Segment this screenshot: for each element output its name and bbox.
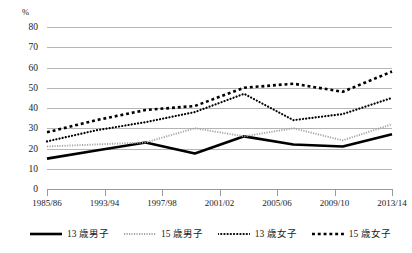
y-tick-label-20: 20 xyxy=(10,144,38,154)
x-tickmark-1985/86 xyxy=(47,189,48,196)
y-tick-label-10: 10 xyxy=(10,164,38,174)
x-tickmark-2005/06 xyxy=(277,189,278,196)
legend-item-13歳男子[interactable]: 13 歳男子 xyxy=(30,229,109,239)
legend-label: 15 歳男子 xyxy=(161,229,203,239)
x-tickmark-1993/94 xyxy=(105,189,106,196)
y-tick-label-50: 50 xyxy=(10,83,38,93)
square-dashed-line-swatch xyxy=(312,229,344,239)
legend-item-15歳男子[interactable]: 15 歳男子 xyxy=(124,229,203,239)
y-tick-label-70: 70 xyxy=(10,42,38,52)
light-dotted-line-swatch xyxy=(124,229,156,239)
series-line-15歳男子 xyxy=(47,124,392,146)
x-tick-label-2013/14: 2013/14 xyxy=(362,198,412,208)
y-axis-unit-label: % xyxy=(22,8,29,17)
series-line-13歳男子 xyxy=(47,134,392,158)
y-tick-label-30: 30 xyxy=(10,123,38,133)
series-lines xyxy=(47,27,392,189)
legend-label: 15 歳女子 xyxy=(349,229,391,239)
legend-item-13歳女子[interactable]: 13 歳女子 xyxy=(218,229,297,239)
y-tick-label-60: 60 xyxy=(10,63,38,73)
x-tickmark-2001/02 xyxy=(220,189,221,196)
x-tickmark-2013/14 xyxy=(392,189,393,196)
y-tick-label-40: 40 xyxy=(10,103,38,113)
y-tick-label-0: 0 xyxy=(10,184,38,194)
legend-label: 13 歳女子 xyxy=(255,229,297,239)
plot-area xyxy=(47,27,392,189)
series-line-13歳女子 xyxy=(47,94,392,142)
fine-dotted-line-swatch xyxy=(218,229,250,239)
series-line-15歳女子 xyxy=(47,72,392,133)
y-tick-label-80: 80 xyxy=(10,22,38,32)
x-tickmark-1997/98 xyxy=(162,189,163,196)
x-tick-label-2005/06: 2005/06 xyxy=(247,198,307,208)
x-tickmark-2009/10 xyxy=(335,189,336,196)
x-tick-label-2009/10: 2009/10 xyxy=(305,198,365,208)
chart-legend: 13 歳男子15 歳男子13 歳女子15 歳女子 xyxy=(30,224,390,244)
solid-line-swatch xyxy=(30,229,62,239)
legend-item-15歳女子[interactable]: 15 歳女子 xyxy=(312,229,391,239)
x-tick-label-1985/86: 1985/86 xyxy=(17,198,77,208)
x-tick-label-1997/98: 1997/98 xyxy=(132,198,192,208)
x-tick-label-2001/02: 2001/02 xyxy=(190,198,250,208)
x-tick-label-1993/94: 1993/94 xyxy=(75,198,135,208)
legend-label: 13 歳男子 xyxy=(67,229,109,239)
